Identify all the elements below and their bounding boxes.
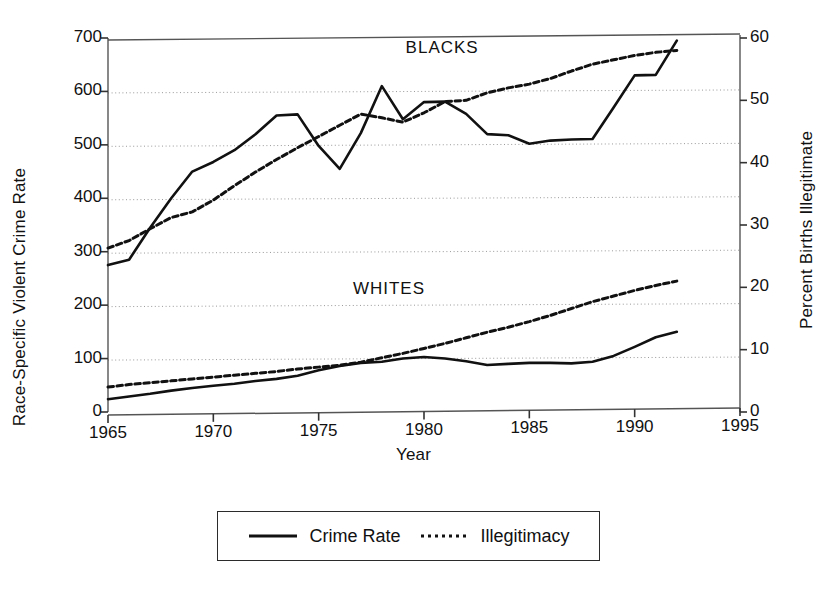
x-axis-tick-label: 1965 <box>70 423 146 443</box>
gridline-horizontal <box>108 304 740 307</box>
legend-label: Illegitimacy <box>481 526 570 547</box>
y-axis-left-tick-label: 600 <box>40 80 102 100</box>
y-axis-left-tick-label: 0 <box>40 401 102 421</box>
series-whites-crime-rate <box>108 332 677 399</box>
x-axis-tick-label: 1970 <box>175 422 251 442</box>
dotted-line-swatch-icon <box>419 530 471 542</box>
y-axis-right-tick-label: 50 <box>750 89 794 109</box>
x-axis-tick-label: 1975 <box>281 421 357 441</box>
x-axis-tick-label: 1985 <box>491 418 567 438</box>
gridline-horizontal <box>108 143 740 146</box>
series-blacks-crime-rate <box>108 41 677 265</box>
y-axis-right-tick-label: 60 <box>750 27 794 47</box>
gridline-horizontal <box>108 250 740 253</box>
y-axis-left-tick-label: 300 <box>40 241 102 261</box>
y-axis-left-tick-label: 100 <box>40 348 102 368</box>
legend-entry-illegitimacy[interactable]: Illegitimacy <box>419 526 570 547</box>
y-axis-right-tick-label: 20 <box>750 276 794 296</box>
x-axis-tick-label: 1990 <box>597 417 673 437</box>
y-axis-right-tick-label: 40 <box>750 152 794 172</box>
y-axis-right-tick-label: 10 <box>750 339 794 359</box>
chart-legend: Crime RateIllegitimacy <box>217 511 600 561</box>
y-axis-left-tick-label: 500 <box>40 134 102 154</box>
y-axis-right-tick-label: 30 <box>750 214 794 234</box>
y-axis-left-tick-label: 400 <box>40 187 102 207</box>
y-axis-left-tick-label: 700 <box>40 27 102 47</box>
series-annotation-whites: WHITES <box>353 279 425 299</box>
legend-entries: Crime RateIllegitimacy <box>218 512 599 560</box>
x-axis-tick-label: 1995 <box>702 416 778 436</box>
y-axis-left-tick-label: 200 <box>40 294 102 314</box>
solid-line-swatch-icon <box>247 530 299 542</box>
chart-figure: Race-Specific Violent Crime Rate Percent… <box>0 0 827 594</box>
legend-label: Crime Rate <box>309 526 400 547</box>
series-blacks-illegitimacy <box>108 50 677 248</box>
series-annotation-blacks: BLACKS <box>406 38 479 58</box>
x-axis-tick-label: 1980 <box>386 420 462 440</box>
gridline-horizontal <box>108 197 740 200</box>
gridline-horizontal <box>108 90 740 93</box>
legend-entry-crime-rate[interactable]: Crime Rate <box>247 526 400 547</box>
